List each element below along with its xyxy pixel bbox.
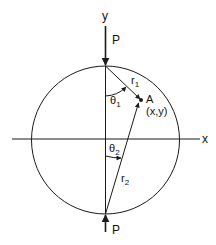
x-axis-label: x <box>202 132 208 146</box>
load-label-bottom: P <box>112 223 120 237</box>
point-a-label: A <box>146 93 154 105</box>
disk-diagram: y x P P r1 θ1 A (x,y) θ2 r2 <box>0 0 216 245</box>
r1-label: r1 <box>131 74 140 89</box>
theta1-label: θ1 <box>110 94 121 109</box>
theta2-label: θ2 <box>109 142 120 157</box>
load-label-top: P <box>112 33 120 47</box>
r2-line <box>106 103 139 214</box>
r2-label: r2 <box>121 172 130 187</box>
point-a <box>139 98 143 102</box>
point-a-coords: (x,y) <box>146 105 167 117</box>
y-axis-label: y <box>102 9 108 23</box>
